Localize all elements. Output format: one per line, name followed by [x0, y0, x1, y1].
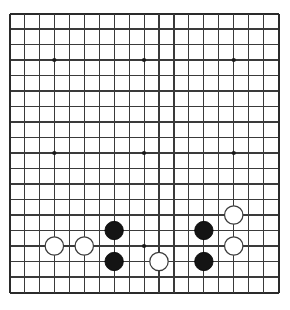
white-stone-f4[interactable]	[75, 237, 93, 255]
star-point	[52, 58, 56, 62]
star-point	[232, 58, 236, 62]
black-stone-o3[interactable]	[195, 252, 213, 270]
star-point	[142, 244, 146, 248]
white-stone-l3[interactable]	[150, 252, 168, 270]
black-stone-h5[interactable]	[105, 221, 123, 239]
star-point	[142, 151, 146, 155]
go-board-container[interactable]	[0, 0, 290, 310]
star-point	[232, 151, 236, 155]
white-stone-d4[interactable]	[45, 237, 63, 255]
white-stone-q6[interactable]	[225, 206, 243, 224]
star-point	[52, 151, 56, 155]
star-point	[142, 58, 146, 62]
black-stone-o5[interactable]	[195, 221, 213, 239]
black-stone-h3[interactable]	[105, 252, 123, 270]
go-board-grid[interactable]	[0, 0, 290, 310]
white-stone-q4[interactable]	[225, 237, 243, 255]
